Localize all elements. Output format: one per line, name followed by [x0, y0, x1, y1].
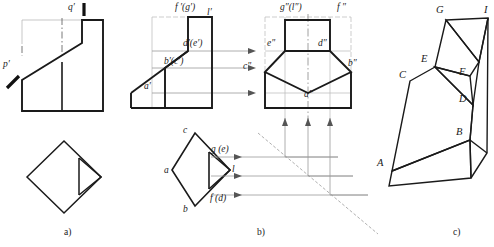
label-B: B	[456, 127, 462, 138]
top-view-corner-edges	[79, 158, 101, 195]
panel-b-side-view	[265, 14, 351, 125]
label-I: I	[484, 5, 488, 16]
label-q-prime: q′	[68, 3, 75, 13]
label-E: E	[421, 54, 427, 65]
face-G-E-F	[435, 20, 479, 76]
caption-a: a)	[64, 228, 71, 238]
label-C: C	[399, 70, 406, 81]
label-b-prime-c-prime: b′(c′)	[164, 57, 183, 67]
label-d-double-prime: d″	[318, 39, 327, 49]
face-G-I-F	[446, 18, 488, 62]
top-view-diamond	[27, 141, 101, 213]
panel-b-top-view	[172, 118, 378, 234]
vertical-projector-arrow-3	[327, 118, 333, 126]
top-projector-arrow-1	[234, 154, 242, 160]
label-d-prime-e-prime: d′(e′)	[183, 39, 202, 49]
caption-c: c)	[453, 228, 460, 238]
label-p-prime: p′	[3, 60, 10, 70]
vertical-projector-arrow-2	[305, 118, 311, 126]
p-prime-marker	[7, 76, 19, 88]
label-f-d: f (d)	[210, 194, 226, 204]
label-f-double-prime: f ″	[337, 3, 346, 13]
caption-b: b)	[257, 228, 265, 238]
drawing-canvas: q′ p′ f ′(g′) l′ d′(e′) b′(c′) a′ g″(l″)…	[0, 0, 494, 247]
top-view-b-corner-edges	[209, 152, 230, 189]
face-A-B-base	[389, 140, 471, 186]
panel-c-isometric	[389, 18, 488, 186]
label-a: a	[164, 166, 169, 176]
label-a-prime: a′	[144, 82, 151, 92]
figure-svg	[0, 0, 494, 247]
projector-arrow-1	[248, 48, 256, 54]
label-b-double-prime: b″	[348, 59, 357, 69]
top-projector-arrow-2	[234, 173, 242, 179]
label-l: l	[232, 165, 235, 175]
top-projector-arrow-3	[234, 192, 242, 198]
mitre-line-45	[258, 133, 378, 234]
panel-b-front-view	[131, 17, 256, 108]
label-D: D	[459, 94, 467, 105]
label-c: c	[183, 126, 187, 136]
panel-a-top-view	[27, 141, 101, 213]
panel-a-front-view	[7, 3, 103, 111]
label-b: b	[183, 205, 188, 215]
label-f-prime-g-prime: f ′(g′)	[175, 3, 195, 13]
label-A: A	[377, 158, 383, 169]
label-g-double-prime-l-double-prime: g″(l″)	[280, 3, 302, 13]
label-G: G	[436, 5, 444, 16]
vertical-projector-arrow-1	[282, 118, 288, 126]
edge-B-to-right	[470, 140, 487, 153]
label-l-prime: l′	[207, 8, 212, 18]
label-g-e: g (e)	[211, 145, 229, 155]
label-c-double-prime: c″	[243, 62, 251, 72]
label-e-double-prime: e″	[267, 39, 275, 49]
label-a-double-prime: a″	[304, 90, 313, 100]
projector-arrow-3	[248, 90, 256, 96]
label-F: F	[459, 67, 465, 78]
